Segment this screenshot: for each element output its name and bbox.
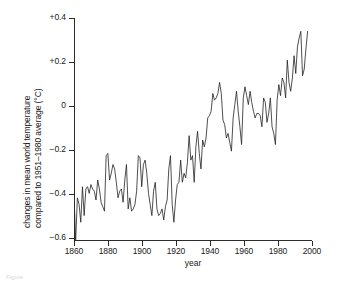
x-tick-label: 2000 <box>292 246 332 256</box>
x-axis-line <box>74 240 312 241</box>
y-axis-line <box>74 18 75 241</box>
y-axis-title-line-1: changes in mean world temperature <box>22 96 32 228</box>
y-axis-title-line-2: compared to 1951–1980 average (°C) <box>33 89 43 228</box>
y-tick-mark <box>69 106 74 107</box>
y-tick-label-text: 0 <box>40 101 66 110</box>
y-tick-mark <box>69 62 74 63</box>
y-tick-mark <box>69 150 74 151</box>
figure-container: +0.4 +0.2 0 −0.2 −0.4 −0.6 1860 1880 190… <box>0 0 340 288</box>
y-tick-mark <box>69 194 74 195</box>
y-tick-mark <box>69 238 74 239</box>
x-axis-title: year <box>74 258 312 268</box>
y-tick-label-text: −0.4 <box>40 189 66 198</box>
y-tick-label-text: +0.4 <box>40 13 66 22</box>
plot-area <box>74 18 311 240</box>
y-tick-label-text: −0.2 <box>40 145 66 154</box>
y-tick-label-text: +0.2 <box>40 57 66 66</box>
temperature-anomaly-line <box>74 18 311 240</box>
y-tick-label: +0.4 <box>38 13 66 22</box>
y-tick-label-text: −0.6 <box>40 233 66 242</box>
y-tick-label: +0.2 <box>38 57 66 66</box>
figure-caption: Figure <box>6 274 166 281</box>
y-tick-mark <box>69 18 74 19</box>
y-tick-label: −0.6 <box>38 233 66 242</box>
